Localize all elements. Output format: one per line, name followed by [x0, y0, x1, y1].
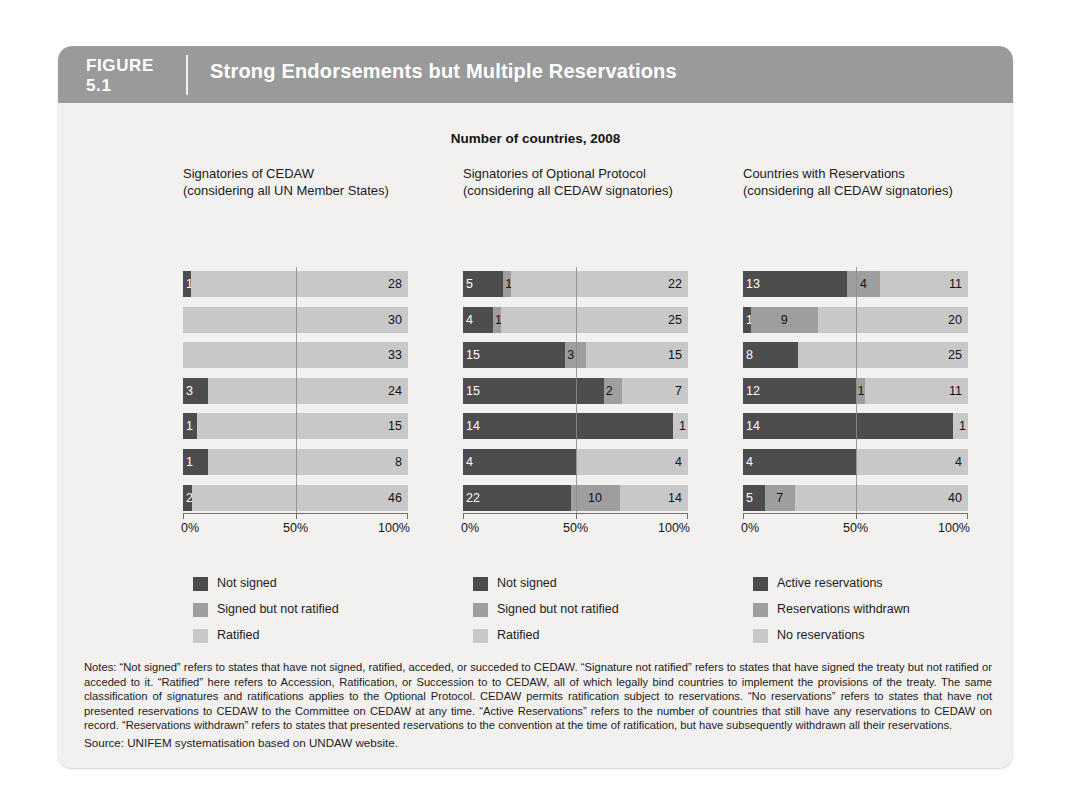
chart-panel-1: 1283033324115182460%50%100% — [183, 271, 408, 538]
bar-segment[interactable]: 1 — [503, 271, 511, 297]
bar-segment[interactable]: 22 — [463, 485, 571, 511]
x-axis-tick-label: 0% — [741, 521, 759, 535]
figure-title: Strong Endorsements but Multiple Reserva… — [210, 60, 677, 83]
bar-value-label: 4 — [675, 456, 682, 469]
bar-segment[interactable]: 1 — [183, 413, 197, 439]
bar-value-label: 25 — [668, 313, 682, 326]
bar-segment[interactable]: 1 — [183, 449, 208, 475]
figure-card: FIGURE 5.1 Strong Endorsements but Multi… — [58, 46, 1013, 768]
panel-title-line2: (considering all CEDAW signatories) — [743, 182, 1013, 199]
bar-value-label: 7 — [675, 384, 682, 397]
bar-value-label: 1 — [858, 384, 865, 397]
x-axis-tick-label: 100% — [938, 521, 970, 535]
bar-segment[interactable]: 5 — [743, 485, 765, 511]
bar-segment[interactable]: 4 — [576, 449, 689, 475]
bar-value-label: 1 — [959, 420, 966, 433]
bar-segment[interactable]: 14 — [620, 485, 688, 511]
bar-value-label: 22 — [466, 491, 480, 504]
x-axis-tick — [743, 513, 744, 519]
bar-value-label: 30 — [388, 313, 402, 326]
bar-segment[interactable]: 40 — [795, 485, 968, 511]
bar-segment[interactable]: 14 — [743, 413, 953, 439]
bar-segment[interactable]: 1 — [673, 413, 688, 439]
bar-segment[interactable]: 7 — [765, 485, 795, 511]
bar-segment[interactable]: 3 — [183, 378, 208, 404]
bar-segment[interactable]: 11 — [880, 271, 968, 297]
bar-value-label: 4 — [466, 456, 473, 469]
bar-segment[interactable]: 25 — [501, 307, 689, 333]
bar-value-label: 7 — [776, 491, 783, 504]
bar-segment[interactable]: 1 — [183, 271, 191, 297]
bar-value-label: 9 — [781, 313, 788, 326]
x-axis-tick — [183, 513, 184, 519]
bar-segment[interactable]: 11 — [865, 378, 968, 404]
bar-segment[interactable]: 15 — [586, 342, 688, 368]
figure-label-word: FIGURE — [86, 56, 178, 75]
legend-item[interactable]: Active reservations — [753, 576, 1013, 592]
figure-notes: Notes: “Not signed” refers to states tha… — [84, 660, 992, 733]
bar-value-label: 4 — [746, 456, 753, 469]
bar-segment[interactable]: 1 — [856, 378, 865, 404]
bar-segment[interactable]: 10 — [571, 485, 620, 511]
bar-value-label: 11 — [949, 278, 962, 291]
header-divider — [186, 55, 188, 95]
bar-segment[interactable]: 28 — [191, 271, 408, 297]
bar-segment[interactable]: 2 — [604, 378, 623, 404]
bar-value-label: 25 — [948, 349, 962, 362]
midpoint-gridline — [856, 267, 857, 518]
bar-segment[interactable]: 15 — [463, 378, 604, 404]
legend-item[interactable]: Ratified — [193, 628, 458, 644]
bar-segment[interactable]: 14 — [463, 413, 673, 439]
panel-title-1: Signatories of CEDAW(considering all UN … — [183, 165, 468, 199]
bar-value-label: 5 — [466, 278, 473, 291]
bar-segment[interactable]: 8 — [743, 342, 798, 368]
legend-item[interactable]: Signed but not ratified — [193, 602, 458, 618]
bar-value-label: 22 — [668, 278, 682, 291]
legend-item[interactable]: No reservations — [753, 628, 1013, 644]
legend-label: Active reservations — [777, 576, 883, 591]
bar-segment[interactable]: 15 — [463, 342, 565, 368]
bar-segment[interactable]: 12 — [743, 378, 856, 404]
bar-segment[interactable]: 4 — [743, 449, 856, 475]
bar-value-label: 5 — [746, 491, 753, 504]
bar-value-label: 15 — [466, 384, 480, 397]
bar-segment[interactable]: 15 — [197, 413, 408, 439]
midpoint-gridline — [576, 267, 577, 518]
bar-segment[interactable]: 5 — [463, 271, 503, 297]
panel-title-line2: (considering all CEDAW signatories) — [463, 182, 748, 199]
plot-area: 128303332411518246 — [183, 271, 408, 520]
legend-swatch-icon — [753, 629, 768, 643]
bar-segment[interactable]: 13 — [743, 271, 847, 297]
bar-segment[interactable]: 1 — [743, 307, 751, 333]
bar-segment[interactable]: 2 — [183, 485, 192, 511]
legend-item[interactable]: Not signed — [473, 576, 738, 592]
legend-label: Signed but not ratified — [497, 602, 619, 617]
bar-segment[interactable]: 46 — [192, 485, 408, 511]
legend-label: Reservations withdrawn — [777, 602, 910, 617]
legend-swatch-icon — [473, 603, 488, 617]
bar-segment[interactable]: 25 — [798, 342, 968, 368]
legend-item[interactable]: Ratified — [473, 628, 738, 644]
bar-segment[interactable]: 1 — [493, 307, 501, 333]
bar-value-label: 24 — [388, 384, 402, 397]
bar-segment[interactable]: 24 — [208, 378, 408, 404]
x-axis-tick-label: 100% — [658, 521, 690, 535]
bar-segment[interactable]: 7 — [622, 378, 688, 404]
legend-label: Signed but not ratified — [217, 602, 339, 617]
bar-segment[interactable]: 20 — [818, 307, 968, 333]
bar-segment[interactable]: 4 — [847, 271, 879, 297]
bar-segment[interactable]: 1 — [953, 413, 968, 439]
bar-segment[interactable]: 4 — [856, 449, 969, 475]
bar-segment[interactable]: 4 — [463, 307, 493, 333]
bar-segment[interactable]: 22 — [511, 271, 688, 297]
legend-item[interactable]: Not signed — [193, 576, 458, 592]
legend-item[interactable]: Signed but not ratified — [473, 602, 738, 618]
bar-segment[interactable]: 8 — [208, 449, 408, 475]
bar-segment[interactable]: 9 — [751, 307, 819, 333]
legend-label: Ratified — [497, 628, 539, 643]
legend-panel-2: Not signedSigned but not ratifiedRatifie… — [473, 576, 738, 646]
bar-segment[interactable]: 4 — [463, 449, 576, 475]
bar-value-label: 4 — [466, 313, 473, 326]
legend-item[interactable]: Reservations withdrawn — [753, 602, 1013, 618]
bar-value-label: 20 — [948, 313, 962, 326]
